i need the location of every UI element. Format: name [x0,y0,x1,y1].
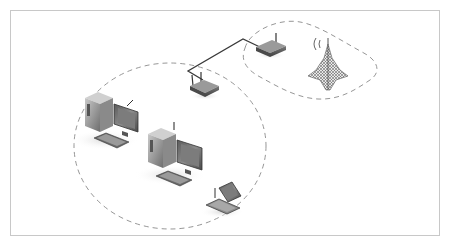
diagram-svg [0,0,449,245]
network-diagram: network-topology [0,0,449,245]
